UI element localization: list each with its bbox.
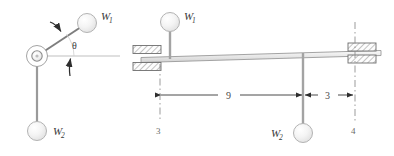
- right-weight-w1-subscript: 1: [192, 16, 196, 25]
- right-weight-w1-sphere: [161, 13, 180, 32]
- left-panel-pivoted-arm: θ W 1 W 2: [27, 10, 121, 141]
- theta-label: θ: [72, 40, 77, 51]
- right-weight-w2-sphere: [294, 124, 313, 143]
- ref-mark-3-label: 3: [156, 126, 161, 136]
- support-right-upper-block: [348, 43, 376, 51]
- pivot-center-dot: [35, 54, 38, 57]
- ref-mark-4-label: 4: [351, 126, 356, 136]
- dimension-9-label: 9: [226, 90, 231, 101]
- left-weight-w2-subscript: 2: [61, 131, 65, 140]
- support-left-upper-block: [133, 46, 161, 54]
- support-left-lower-block: [133, 63, 161, 71]
- right-panel-supported-beam: W 1 W 2 9 3 3 4: [133, 10, 381, 143]
- left-weight-w1-sphere: [78, 14, 97, 33]
- arm-force-arrow: [50, 22, 61, 32]
- angle-indicator-arrow: [69, 59, 70, 77]
- dimension-3-label: 3: [325, 90, 330, 101]
- right-weight-w2-subscript: 2: [279, 133, 283, 142]
- support-right-lower-block: [348, 55, 376, 63]
- left-weight-w2-sphere: [28, 122, 47, 141]
- beam-body: [141, 51, 381, 63]
- figure-container: θ W 1 W 2 W 1: [0, 0, 394, 156]
- left-weight-w1-subscript: 1: [109, 16, 113, 25]
- mechanics-figure: θ W 1 W 2 W 1: [0, 0, 394, 156]
